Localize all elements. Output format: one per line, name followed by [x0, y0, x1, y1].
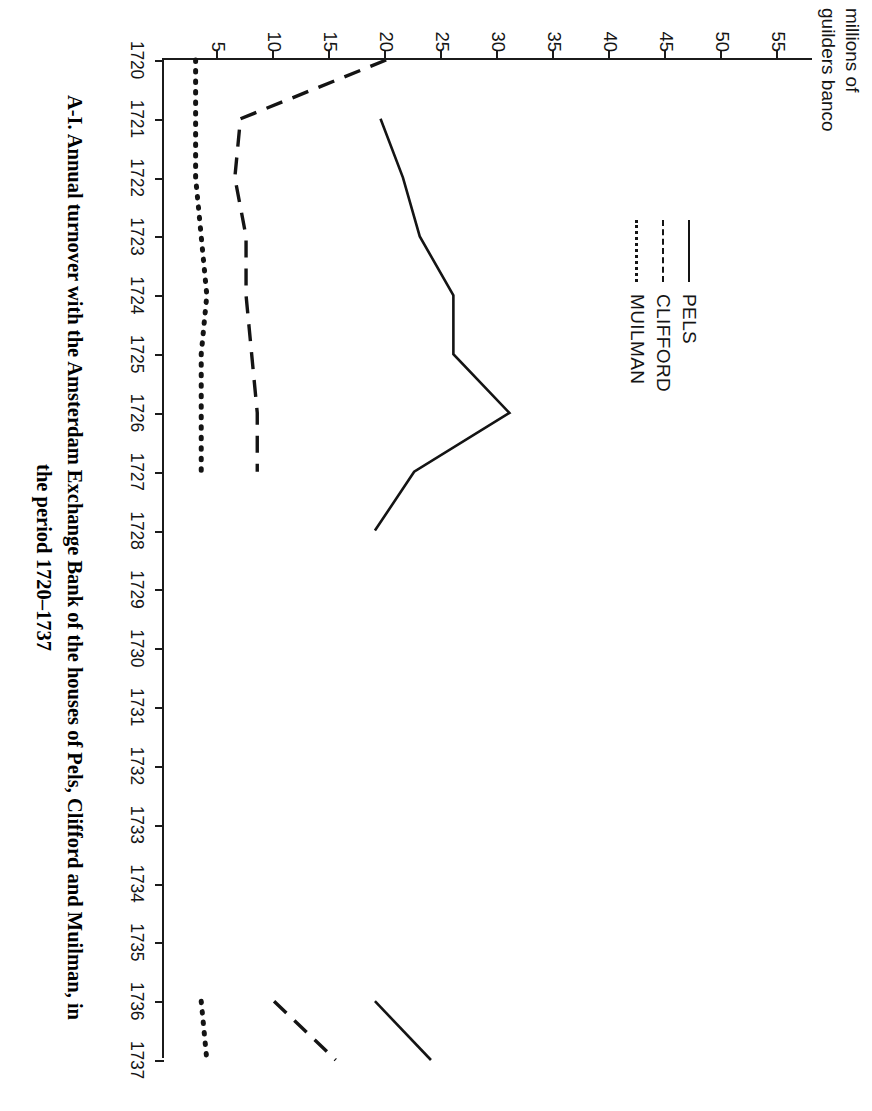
y-axis-label: 40 — [599, 18, 621, 52]
x-axis-label: 1721 — [126, 100, 147, 138]
series-line-muilman — [201, 1001, 207, 1060]
x-axis-tick — [155, 531, 164, 533]
y-axis-tick — [384, 51, 386, 60]
y-axis-title: millions of guilders banco — [815, 8, 864, 132]
plot-svg — [162, 60, 812, 1060]
legend-line-dashed-icon — [662, 220, 664, 282]
series-line-pels — [375, 1001, 431, 1060]
y-axis-label: 20 — [375, 18, 397, 52]
y-axis-tick — [272, 51, 274, 60]
y-axis-label: 45 — [655, 18, 677, 52]
x-axis-tick — [155, 119, 164, 121]
series-line-clifford — [274, 1001, 336, 1060]
series-line-muilman — [196, 60, 207, 472]
y-axis-label: 30 — [487, 18, 509, 52]
x-axis-tick — [155, 825, 164, 827]
legend-item-muilman: MUILMAN — [624, 220, 650, 392]
y-axis-tick — [328, 51, 330, 60]
x-axis-tick — [155, 1060, 164, 1062]
x-axis-tick — [155, 589, 164, 591]
y-axis-label: 35 — [543, 18, 565, 52]
x-axis-tick — [155, 60, 164, 62]
legend-label-clifford: CLIFFORD — [652, 294, 674, 392]
x-axis-label: 1720 — [126, 41, 147, 79]
x-axis-label: 1736 — [126, 982, 147, 1020]
y-axis-label: 15 — [319, 18, 341, 52]
y-axis-label: 10 — [263, 18, 285, 52]
x-axis-label: 1729 — [126, 570, 147, 608]
legend-line-dotted-icon — [636, 220, 639, 282]
series-line-clifford — [235, 60, 386, 472]
x-axis-tick — [155, 354, 164, 356]
y-axis-tick — [776, 51, 778, 60]
figure-root: millions of guilders banco PELS CLIFFORD… — [0, 0, 872, 1111]
y-axis-tick — [664, 51, 666, 60]
y-axis-tick — [216, 51, 218, 60]
x-axis-tick — [155, 1001, 164, 1003]
x-axis-tick — [155, 295, 164, 297]
x-axis-tick — [155, 942, 164, 944]
x-axis-label: 1723 — [126, 217, 147, 255]
x-axis-tick — [155, 236, 164, 238]
series-line-pels — [375, 119, 509, 531]
x-axis-label: 1731 — [126, 688, 147, 726]
x-axis-label: 1735 — [126, 923, 147, 961]
legend: PELS CLIFFORD MUILMAN — [624, 220, 702, 392]
x-axis-tick — [155, 884, 164, 886]
x-axis-tick — [155, 413, 164, 415]
y-axis-label: 5 — [207, 18, 229, 52]
caption-line-1: A-I. Annual turnover with the Amsterdam … — [59, 60, 90, 1055]
legend-label-pels: PELS — [678, 294, 700, 344]
x-axis-tick — [155, 648, 164, 650]
y-axis-tick — [720, 51, 722, 60]
x-axis-label: 1722 — [126, 159, 147, 197]
y-axis-label: 25 — [431, 18, 453, 52]
y-axis-label: 55 — [767, 18, 789, 52]
y-axis-tick — [552, 51, 554, 60]
x-axis-tick — [155, 178, 164, 180]
x-axis-label: 1726 — [126, 394, 147, 432]
x-axis-label: 1724 — [126, 276, 147, 314]
caption-line-2: the period 1720–1737 — [29, 60, 60, 1055]
legend-label-muilman: MUILMAN — [626, 294, 648, 384]
y-axis-tick — [608, 51, 610, 60]
x-axis-tick — [155, 707, 164, 709]
legend-item-pels: PELS — [676, 220, 702, 392]
y-axis-tick — [496, 51, 498, 60]
plot-area: PELS CLIFFORD MUILMAN 172017211722172317… — [162, 58, 812, 1058]
y-axis-label: 50 — [711, 18, 733, 52]
x-axis-label: 1734 — [126, 864, 147, 902]
y-axis-tick — [440, 51, 442, 60]
x-axis-label: 1733 — [126, 806, 147, 844]
x-axis-label: 1730 — [126, 629, 147, 667]
x-axis-label: 1737 — [126, 1041, 147, 1079]
legend-item-clifford: CLIFFORD — [650, 220, 676, 392]
x-axis-label: 1728 — [126, 512, 147, 550]
x-axis-label: 1732 — [126, 747, 147, 785]
figure-caption: A-I. Annual turnover with the Amsterdam … — [29, 60, 91, 1055]
x-axis-tick — [155, 766, 164, 768]
x-axis-tick — [155, 472, 164, 474]
x-axis-label: 1725 — [126, 335, 147, 373]
x-axis-label: 1727 — [126, 453, 147, 491]
legend-line-solid-icon — [688, 220, 690, 282]
